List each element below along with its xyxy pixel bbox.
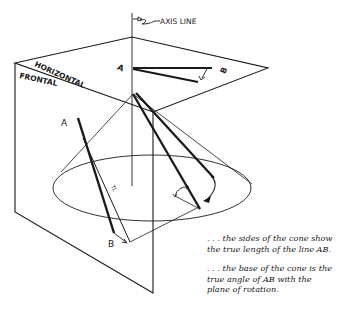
front-view-line-ab (78, 118, 114, 233)
caption-true-angle: . . . the base of the cone is the true a… (207, 263, 337, 295)
true-length-line (83, 138, 130, 242)
axis-line-label: AXIS LINE (160, 17, 197, 26)
point-a-top-label: A (116, 63, 126, 74)
rotation-arrow-icon (207, 176, 215, 200)
caption-true-length: . . . the sides of the cone show the tru… (207, 233, 337, 254)
point-b-top-label: B (219, 66, 230, 75)
top-view-line-ab-rotated (133, 69, 198, 82)
true-length-label: TL (110, 183, 119, 193)
rotation-arrowhead-icon (203, 196, 211, 203)
point-a-front-label: A (61, 118, 68, 128)
point-b-front-label: B (108, 239, 114, 249)
axis-leader-icon (133, 17, 160, 24)
cone-base-ellipse (53, 155, 251, 221)
tl-arrow-icon (114, 233, 127, 243)
top-rotation-arrow-icon (199, 69, 207, 80)
base-radius-line (130, 207, 199, 242)
